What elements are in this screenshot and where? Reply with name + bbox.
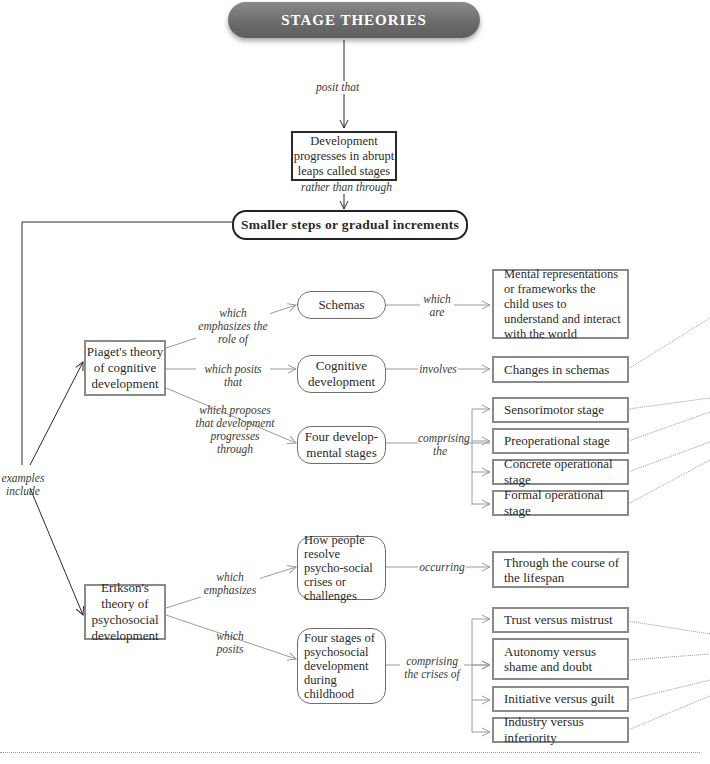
node-schemas: Schemas (297, 291, 386, 319)
link-comprising-crises: comprising the crises of (400, 655, 464, 681)
node-formal-operational-stage: Formal operational stage (492, 490, 629, 516)
link-rather-than: rather than through (301, 181, 392, 194)
link-posit-that: posit that (316, 81, 359, 94)
node-initiative-vs-guilt: Initiative versus guilt (492, 686, 629, 712)
node-mental-representations: Mental representations or frameworks the… (492, 269, 629, 339)
node-erikson: Erikson's theory of psychosocial develop… (84, 584, 166, 640)
node-preoperational-stage: Preoperational stage (492, 428, 629, 454)
link-comprising-the: comprising the (418, 432, 462, 458)
node-piaget: Piaget's theory of cognitive development (84, 340, 166, 396)
node-trust-vs-mistrust: Trust versus mistrust (492, 607, 629, 633)
node-autonomy-vs-shame: Autonomy versus shame and doubt (492, 638, 629, 680)
link-emphasizes-role: which emphasizes the role of (196, 307, 270, 346)
link-examples-include: examples include (0, 472, 46, 498)
link-posits-that: which posits that (196, 363, 270, 389)
link-which-posits: which posits (210, 630, 250, 656)
title-stage-theories: STAGE THEORIES (228, 2, 480, 38)
node-four-psychosocial-stages: Four stages of psychosocial development … (297, 628, 386, 704)
link-which-are: which are (420, 293, 454, 319)
node-gradual-increments: Smaller steps or gradual increments (232, 210, 468, 240)
node-through-lifespan: Through the course of the lifespan (492, 551, 629, 588)
bottom-dotted-divider (0, 752, 700, 753)
node-concrete-operational-stage: Concrete operational stage (492, 459, 629, 485)
node-industry-vs-inferiority: Industry versus inferiority (492, 717, 629, 743)
node-cognitive-development: Cognitive development (297, 355, 386, 393)
node-changes-in-schemas: Changes in schemas (492, 356, 629, 383)
link-occurring: occurring (418, 561, 466, 574)
link-involves: involves (418, 363, 458, 376)
node-abrupt-leaps: Development progresses in abrupt leaps c… (291, 131, 397, 181)
link-proposes: which proposes that development progress… (192, 404, 278, 456)
node-resolve-crises: How people resolve psycho-social crises … (297, 536, 386, 600)
node-four-developmental-stages: Four develop-mental stages (297, 426, 386, 464)
link-which-emphasizes: which emphasizes (200, 571, 260, 597)
node-sensorimotor-stage: Sensorimotor stage (492, 397, 629, 423)
